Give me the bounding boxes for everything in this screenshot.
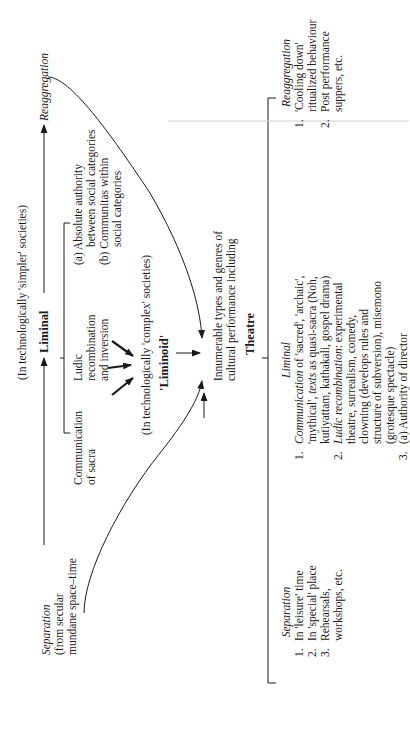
theatre-label: Theatre bbox=[244, 313, 257, 355]
theatre-liminal: Liminal 1.Communication of 'sacred', 'ar… bbox=[280, 260, 410, 460]
liminoid-label: 'Liminoid' bbox=[158, 335, 171, 391]
separation-left: Separation (from secular mundane space–t… bbox=[40, 558, 79, 655]
communication-sacra: Communication of sacra bbox=[72, 411, 98, 485]
liminal-label: Liminal bbox=[38, 311, 51, 353]
simpler-societies-label: (In technologically 'simpler' societies) bbox=[16, 205, 29, 380]
reaggregation-top: Reaggregation bbox=[38, 53, 51, 121]
theatre-reaggregation: Reaggregation 1.'Cooling down'ritualized… bbox=[280, 18, 345, 128]
ludic-recombination: Ludic recombination and inversion bbox=[72, 315, 111, 381]
authority-communitas: (a) Absolute authority between social ca… bbox=[72, 130, 124, 266]
complex-societies-label: (In technologically 'complex' societies) bbox=[140, 255, 153, 435]
innumerable-types: Innumerable types and genres of cultural… bbox=[212, 231, 238, 381]
theatre-separation: Separation 1.In 'leisure' time 2.In 'spe… bbox=[280, 565, 345, 657]
